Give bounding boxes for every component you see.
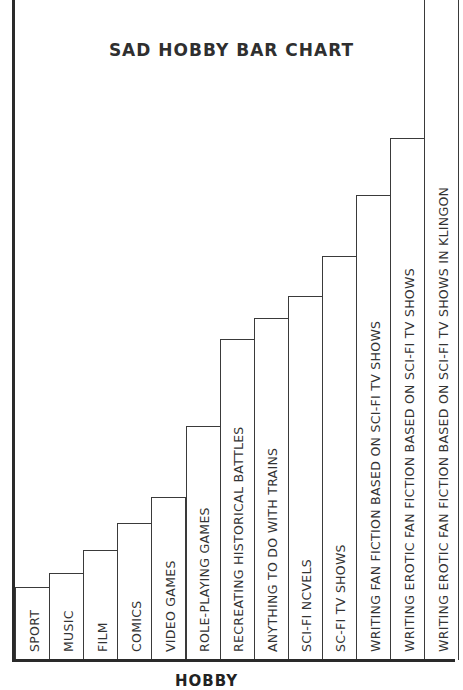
bar-label: RECREATING HISTORICAL BATTLES xyxy=(231,426,246,652)
bar: RECREATING HISTORICAL BATTLES xyxy=(220,339,255,660)
bar: VIDEO GAMES xyxy=(151,497,186,660)
x-axis-label: HOBBY xyxy=(175,672,238,690)
bar: WRITING EROTIC FAN FICTION BASED ON SCI-… xyxy=(424,0,459,660)
bar-label: SC-FI TV SHOWS xyxy=(333,544,348,652)
bar: ANYTHING TO DO WITH TRAINS xyxy=(254,318,289,660)
bar: SPORT xyxy=(15,587,50,660)
bar: COMICS xyxy=(117,523,152,660)
bar-label: ANYTHING TO DO WITH TRAINS xyxy=(265,448,280,652)
y-axis-line xyxy=(12,0,15,662)
bar: SCI-FI NCVELS xyxy=(288,296,323,660)
bar-label: FILM xyxy=(95,622,110,652)
bar-label: ROLE-PLAYING GAMES xyxy=(197,507,212,652)
x-axis-line xyxy=(12,659,455,662)
bar: ROLE-PLAYING GAMES xyxy=(186,426,221,660)
bar: WRITING FAN FICTION BASED ON SCI-FI TV S… xyxy=(356,195,391,660)
bar-label: WRITING EROTIC FAN FICTION BASED ON SCI-… xyxy=(402,268,417,652)
bar-label: COMICS xyxy=(129,600,144,652)
bar-label: SPORT xyxy=(27,610,42,652)
bar-label: WRITING EROTIC FAN FICTION BASED ON SCI-… xyxy=(436,187,451,652)
chart-title: SAD HOBBY BAR CHART xyxy=(0,40,463,60)
bar: WRITING EROTIC FAN FICTION BASED ON SCI-… xyxy=(390,138,425,660)
bar-label: MUSIC xyxy=(61,610,76,652)
bar: SC-FI TV SHOWS xyxy=(322,256,357,660)
bar-label: WRITING FAN FICTION BASED ON SCI-FI TV S… xyxy=(368,321,383,652)
bar: FILM xyxy=(83,550,118,660)
bar: MUSIC xyxy=(49,573,84,660)
bar-label: SCI-FI NCVELS xyxy=(299,559,314,652)
bar-label: VIDEO GAMES xyxy=(163,560,178,652)
